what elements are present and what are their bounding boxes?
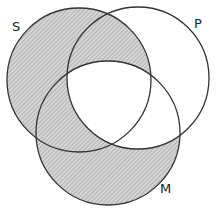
label-m: M bbox=[160, 182, 171, 195]
shade-m-region bbox=[36, 61, 180, 205]
label-p: P bbox=[194, 17, 202, 30]
label-s: S bbox=[12, 20, 20, 33]
venn-diagram bbox=[0, 0, 216, 217]
